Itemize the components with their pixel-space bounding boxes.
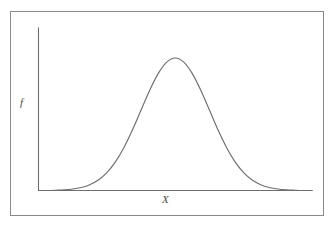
distribution-curve-group: [39, 58, 313, 191]
y-axis-label: f: [20, 97, 23, 108]
normal-distribution-curve: [39, 58, 313, 191]
figure-root: f X: [0, 0, 335, 226]
plot-axes: [39, 28, 313, 191]
x-axis-label: X: [162, 194, 169, 205]
